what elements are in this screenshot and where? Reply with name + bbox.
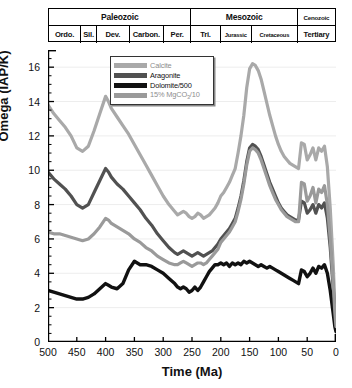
legend-swatch-icon [114, 63, 147, 68]
per-cell-tri: Tri. [191, 26, 220, 43]
legend-item-3: 15% MgCO3/10 [114, 91, 209, 100]
y-tick-label-12: 12 [10, 130, 40, 142]
per-cell-dev: Dev. [97, 26, 130, 43]
y-tick-label-4: 4 [10, 267, 40, 279]
legend-label: 15% MgCO3/10 [150, 90, 200, 100]
y-tick-label-14: 14 [10, 96, 40, 108]
period-row: Ordo.Sil.Dev.Carbon.Per.Tri.JurassicCret… [49, 26, 335, 43]
per-cell-cretaceous: Cretaceous [252, 26, 298, 43]
geologic-timescale: PaleozoicMesozoicCenozoic Ordo.Sil.Dev.C… [48, 8, 336, 42]
series-line-dolomite500 [48, 261, 336, 331]
legend-label: Aragonite [150, 71, 180, 80]
figure-root: PaleozoicMesozoicCenozoic Ordo.Sil.Dev.C… [0, 0, 352, 388]
legend-item-0: Calcite [114, 61, 209, 70]
legend-item-2: Dolomite/500 [114, 81, 209, 90]
y-tick-label-8: 8 [10, 199, 40, 211]
series-line-15mgco310 [48, 148, 336, 327]
per-cell-per: Per. [164, 26, 191, 43]
per-cell-ordo: Ordo. [49, 26, 81, 43]
era-row: PaleozoicMesozoicCenozoic [49, 9, 335, 26]
legend-label: Dolomite/500 [150, 81, 192, 90]
per-cell-carbon: Carbon. [130, 26, 164, 43]
era-cell-paleozoic: Paleozoic [49, 9, 191, 25]
chart-legend: CalciteAragoniteDolomite/50015% MgCO3/10 [110, 56, 214, 105]
per-cell-jurassic: Jurassic [221, 26, 252, 43]
y-tick-label-6: 6 [10, 233, 40, 245]
legend-swatch-icon [114, 93, 147, 98]
per-cell-tertiary: Tertiary [298, 26, 335, 43]
y-tick-label-2: 2 [10, 302, 40, 314]
era-cell-cenozoic: Cenozoic [298, 9, 335, 25]
per-cell-sil: Sil. [81, 26, 97, 43]
y-tick-label-16: 16 [10, 61, 40, 73]
x-tick-label-0: 0 [316, 346, 352, 358]
x-axis-label: Time (Ma) [48, 364, 336, 379]
legend-item-1: Aragonite [114, 71, 209, 80]
legend-swatch-icon [114, 73, 147, 78]
era-cell-mesozoic: Mesozoic [191, 9, 297, 25]
legend-label: Calcite [150, 61, 172, 70]
legend-swatch-icon [114, 83, 147, 88]
y-tick-label-10: 10 [10, 164, 40, 176]
